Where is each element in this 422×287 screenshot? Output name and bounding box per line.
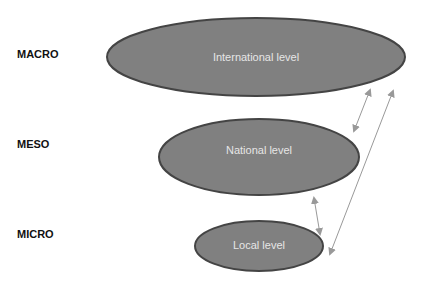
arrow-international-national <box>354 90 370 131</box>
arrow-national-local <box>314 198 320 234</box>
levels-diagram: International level National level Local… <box>0 0 422 287</box>
national-level-ellipse: National level <box>159 119 359 195</box>
national-level-text: National level <box>226 144 292 156</box>
international-level-ellipse: International level <box>107 18 405 96</box>
local-level-text: Local level <box>233 239 285 251</box>
local-level-ellipse: Local level <box>195 221 323 271</box>
international-level-text: International level <box>213 51 299 63</box>
